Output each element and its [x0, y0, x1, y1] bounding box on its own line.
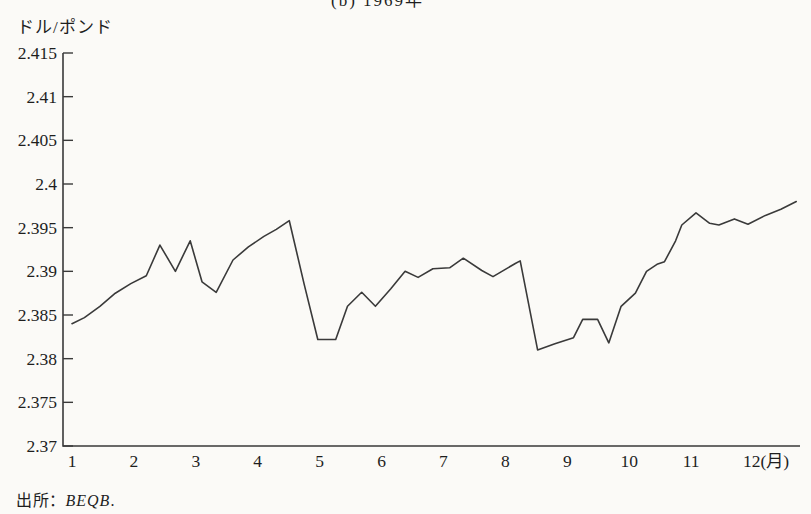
y-axis-labels: 2.4152.412.4052.42.3952.392.3852.382.375…: [18, 43, 58, 456]
x-tick-label-month-5: 5: [315, 451, 324, 471]
y-tick-label: 2.37: [26, 436, 57, 456]
source-note-value: BEQB: [66, 492, 111, 509]
y-tick-label: 2.375: [18, 392, 58, 412]
series-line-dollar-pound-exchange-rate: [72, 202, 796, 350]
y-tick-label: 2.405: [18, 130, 58, 150]
y-tick-label: 2.385: [18, 305, 58, 325]
data-series: [72, 202, 796, 350]
y-tick-label: 2.415: [18, 43, 58, 63]
x-tick-label-month-1: 1: [68, 451, 77, 471]
y-tick-label: 2.395: [18, 218, 58, 238]
y-tick-label: 2.4: [35, 174, 57, 194]
x-tick-label-month-10: 10: [620, 451, 638, 471]
y-axis-ticks: [63, 53, 73, 446]
x-tick-label-month-3: 3: [191, 451, 200, 471]
axis-lines: [63, 53, 800, 446]
y-tick-label: 2.41: [26, 87, 57, 107]
scanned-chart-page: (b) 1969年 ドル/ポンド 2.4152.412.4052.42.3952…: [0, 0, 811, 514]
source-note-suffix: .: [110, 492, 115, 509]
x-tick-label-month-7: 7: [439, 451, 448, 471]
y-tick-label: 2.38: [26, 349, 57, 369]
exchange-rate-line-chart: 2.4152.412.4052.42.3952.392.3852.382.375…: [0, 0, 811, 514]
axes: [63, 53, 800, 446]
x-tick-label-month-8: 8: [501, 451, 510, 471]
y-tick-label: 2.39: [26, 261, 57, 281]
x-tick-label-month-11: 11: [683, 451, 700, 471]
x-tick-label-month-12: 12(月): [743, 451, 789, 471]
x-axis-labels: 123456789101112(月): [68, 451, 790, 471]
x-tick-label-month-2: 2: [130, 451, 139, 471]
source-note: 出所：BEQB.: [16, 487, 115, 511]
x-tick-label-month-9: 9: [563, 451, 572, 471]
x-tick-label-month-4: 4: [253, 451, 262, 471]
x-tick-label-month-6: 6: [377, 451, 386, 471]
source-note-prefix: 出所：: [16, 492, 66, 509]
